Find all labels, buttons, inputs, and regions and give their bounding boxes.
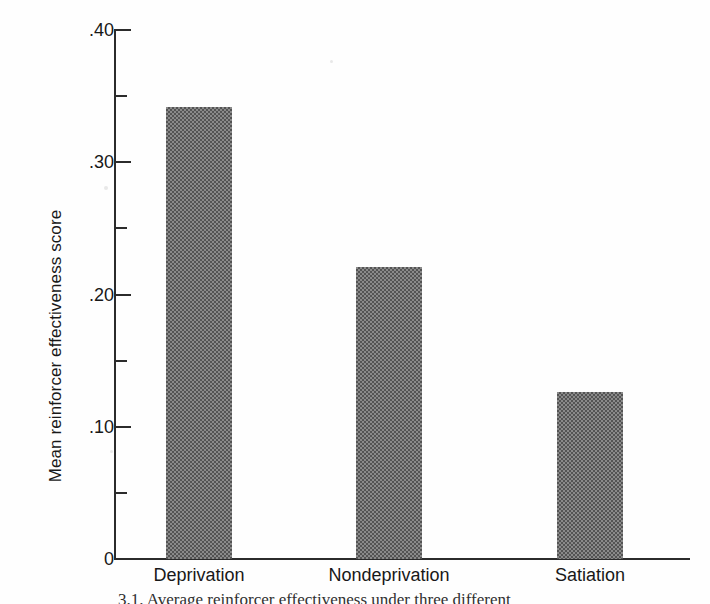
y-tick-minor: [116, 227, 127, 229]
y-tick-label: 0: [54, 549, 114, 570]
y-tick-label: .20: [54, 284, 114, 305]
y-axis-title: Mean reinforcer effectiveness score: [46, 136, 66, 556]
paper-speckle: [104, 186, 108, 190]
x-category-label: Nondeprivation: [328, 565, 449, 586]
bar-satiation: [557, 392, 623, 559]
y-tick-major: [116, 558, 131, 560]
y-tick-major: [116, 161, 131, 163]
y-tick-minor: [116, 360, 127, 362]
figure-bar-chart: Mean reinforcer effectiveness score 0.10…: [0, 0, 710, 604]
y-tick-label: .10: [54, 416, 114, 437]
figure-caption: 3.1. Average reinforcer effectiveness un…: [118, 590, 698, 604]
y-tick-label: .30: [54, 152, 114, 173]
x-category-label: Deprivation: [153, 565, 244, 586]
y-tick-major: [116, 29, 131, 31]
y-tick-minor: [116, 95, 127, 97]
paper-speckle: [330, 60, 333, 63]
y-tick-major: [116, 426, 131, 428]
y-tick-minor: [116, 492, 127, 494]
bar-nondeprivation: [356, 267, 422, 559]
x-category-label: Satiation: [555, 565, 625, 586]
y-tick-major: [116, 294, 131, 296]
paper-speckle: [110, 450, 113, 453]
y-tick-label: .40: [54, 20, 114, 41]
bar-deprivation: [166, 107, 232, 559]
